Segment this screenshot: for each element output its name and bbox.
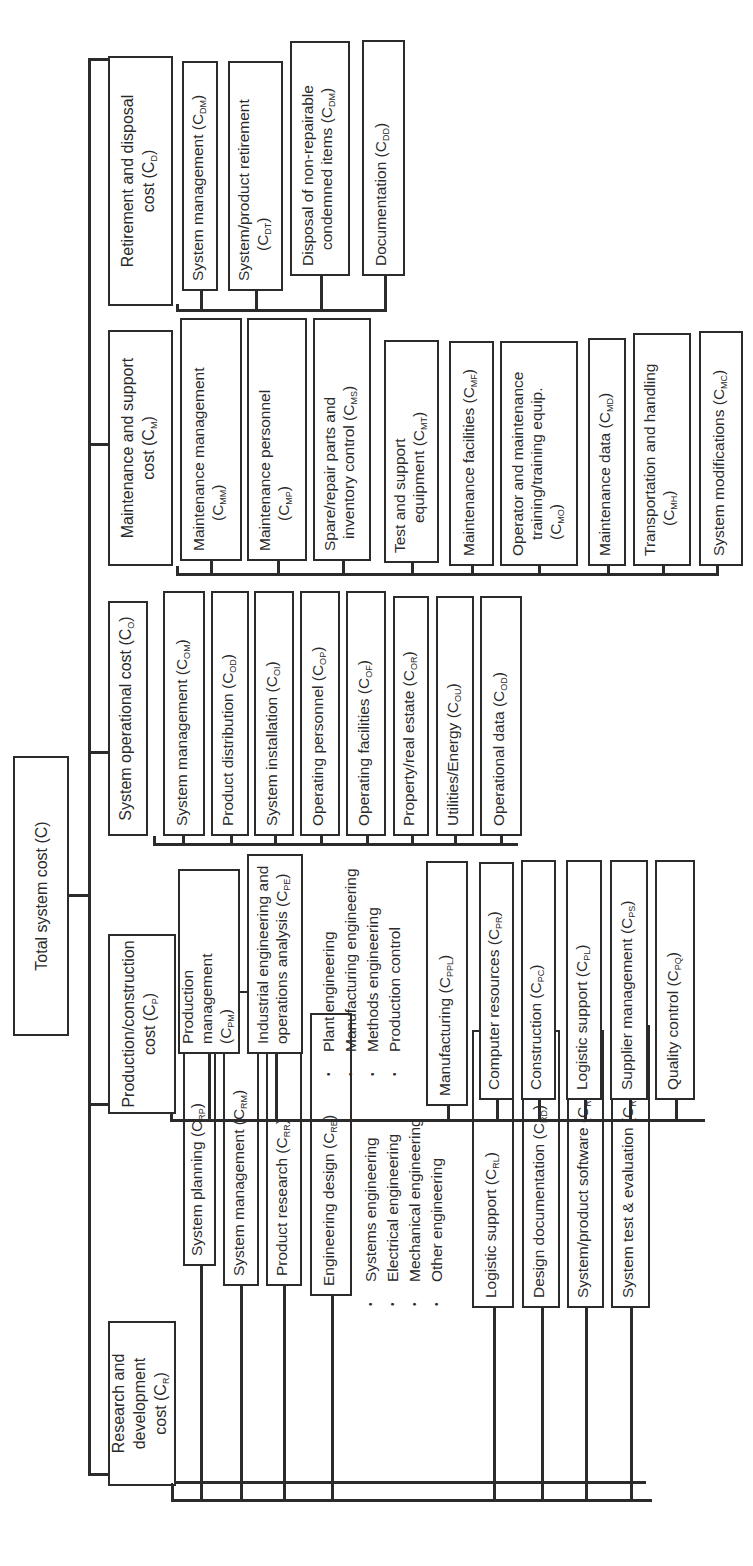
item-label: Transportation and handling <box>640 364 659 556</box>
production-engineering-subtopics: Plant engineering Manufacturing engineer… <box>318 816 406 1076</box>
research-bus-top <box>171 1484 174 1502</box>
life-cycle-cost-breakdown-diagram: Total system cost (C) Research and devel… <box>0 0 753 1566</box>
operational-item-operational-data: Operational data (COD) <box>480 596 522 836</box>
item-label: Maintenance personnel <box>255 390 274 551</box>
item-tail: ) <box>444 683 461 688</box>
trunk-drop-maintenance <box>88 444 110 447</box>
item-label: Computer resources (C <box>485 929 502 1090</box>
retirement-conn-2 <box>320 276 323 312</box>
item-label: Property/real estate (C <box>400 670 417 826</box>
branch-system-operational: System operational cost (CO) <box>108 601 148 836</box>
item-subscript: DD <box>381 128 391 141</box>
item-label: System/product retirement <box>234 99 253 281</box>
research-conn-4 <box>493 1308 496 1502</box>
operational-conn-3 <box>320 836 323 846</box>
item-subscript: RM <box>239 1095 249 1109</box>
production-children-bus <box>170 1120 705 1123</box>
item-subscript: MM <box>218 490 228 505</box>
item-label: Utilities/Energy (C <box>444 702 461 826</box>
item-tail: ) <box>660 490 677 495</box>
item-subscript: PR <box>494 916 504 929</box>
item-subscript: PM <box>226 1014 236 1028</box>
item-label: System/product software (C <box>574 1107 591 1298</box>
item-tail: ) <box>490 672 507 677</box>
item-label-line2: inventory control (C <box>340 405 357 539</box>
maintenance-conn-5 <box>538 566 541 576</box>
item-subscript: OD <box>499 677 509 691</box>
production-item-construction: Construction (CPC) <box>521 860 556 1100</box>
item-label: System installation (C <box>263 676 280 826</box>
research-conn-3 <box>331 1296 334 1502</box>
item-subscript: PQ <box>673 957 683 970</box>
branch-maintenance-support: Maintenance and support cost (CM) <box>108 330 173 566</box>
item-subscript: OD <box>228 659 238 673</box>
research-conn-7 <box>630 1308 633 1502</box>
item-label-line2: (C <box>660 510 677 526</box>
item-subscript: RR <box>282 1124 292 1137</box>
production-conn-1 <box>275 1054 278 1122</box>
item-label: Logistic support (C <box>573 961 590 1090</box>
item-tail: ) <box>596 393 613 398</box>
item-label-line2: training/training equip. <box>527 387 546 556</box>
operational-conn-2 <box>274 836 277 846</box>
item-subscript: OU <box>453 688 463 702</box>
branch-label-line2: cost (C <box>140 429 157 480</box>
item-tail: ) <box>254 217 271 222</box>
retirement-conn-3 <box>384 276 387 312</box>
item-subscript: DM <box>198 100 208 114</box>
item-label: Quality control (C <box>664 970 681 1090</box>
production-conn-7 <box>675 1100 678 1122</box>
item-tail: ) <box>355 660 372 665</box>
retirement-item-system-management: System management (CDM) <box>182 61 218 291</box>
item-tail: ) <box>273 873 290 878</box>
item-subscript: PS <box>627 906 637 918</box>
production-item-supplier-management: Supplier management (CPS) <box>610 860 648 1100</box>
item-subscript: DM <box>327 93 337 107</box>
retirement-children-bus <box>176 310 386 313</box>
retirement-item-disposal-condemned: Disposal of non-repairable condemned ite… <box>290 41 350 276</box>
operational-conn-0 <box>182 836 185 846</box>
retirement-conn-0 <box>200 291 203 312</box>
branch-label-line1: Retirement and disposal <box>117 95 138 268</box>
item-tail: ) <box>527 965 544 970</box>
branch-label-line2: cost (C <box>152 1384 169 1435</box>
maintenance-item-management: Maintenance management (CMM) <box>180 318 242 561</box>
item-tail: ) <box>219 654 236 659</box>
item-label-line2: condemned items (C <box>318 107 335 250</box>
branch-production-construction: Production/construction cost (CP) <box>108 934 176 1114</box>
item-subscript: MP <box>284 491 294 505</box>
trunk-drop-operational <box>88 752 110 755</box>
branch-subscript: O <box>126 622 136 629</box>
maintenance-conn-2 <box>342 561 345 576</box>
research-conn-0 <box>200 1266 203 1502</box>
item-tail: ) <box>188 1103 205 1108</box>
branch-subscript: R <box>161 1378 171 1385</box>
research-child-bus <box>176 1482 646 1485</box>
item-label-line2: equipment (C <box>410 430 427 523</box>
item-tail: ) <box>573 945 590 950</box>
maintenance-conn-0 <box>210 561 213 576</box>
item-subscript: PC <box>536 970 546 983</box>
bullet-item: Mechanical engineering <box>404 1006 426 1306</box>
research-conn-2 <box>283 1286 286 1502</box>
trunk-drop-production <box>88 1104 110 1107</box>
item-tail: ) <box>209 484 226 489</box>
item-label: System test & evaluation (C <box>619 1107 636 1298</box>
maintenance-conn-8 <box>716 566 719 576</box>
item-subscript: PL <box>582 950 592 961</box>
item-tail: ) <box>173 639 190 644</box>
item-subscript: MC <box>719 375 729 389</box>
item-tail: ) <box>618 901 635 906</box>
production-item-computer-resources: Computer resources (CPR) <box>479 862 514 1100</box>
item-label: Maintenance data (C <box>596 412 613 556</box>
item-tail: ) <box>318 88 335 93</box>
production-item-industrial-engineering: Industrial engineering and operations an… <box>247 854 303 1054</box>
item-label: Maintenance management <box>189 367 208 551</box>
item-tail: ) <box>309 647 326 652</box>
production-conn-4 <box>538 1100 541 1122</box>
operational-item-property-real-estate: Property/real estate (COR) <box>393 596 429 836</box>
bullet-item: Methods engineering <box>362 816 384 1076</box>
bullet-item: Manufacturing engineering <box>340 816 362 1076</box>
maintenance-item-transportation-handling: Transportation and handling (CMH) <box>633 333 691 566</box>
item-subscript: OI <box>272 667 282 677</box>
